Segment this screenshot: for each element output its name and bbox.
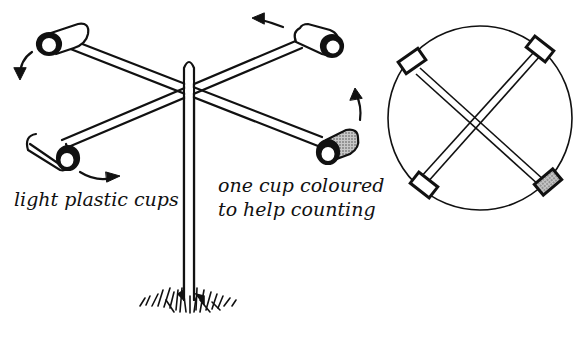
label-light-plastic-cups: light plastic cups xyxy=(14,187,179,211)
rotation-arrow-right xyxy=(350,88,362,120)
top-cup-lower-right-coloured xyxy=(534,169,561,195)
label-coloured-line-2: to help counting xyxy=(218,197,384,221)
label-coloured-cup: one cup coloured to help counting xyxy=(218,173,384,221)
cup-lower-right-coloured xyxy=(317,130,358,164)
top-view xyxy=(388,26,572,210)
cup-top-right xyxy=(295,24,343,57)
top-cup-top-right xyxy=(526,36,554,62)
cup-top-left xyxy=(37,24,88,55)
rotation-arrow-bottom xyxy=(80,172,120,182)
top-view-arms xyxy=(416,52,544,186)
arm-b xyxy=(62,40,302,148)
anemometer-diagram xyxy=(0,0,587,341)
label-coloured-line-1: one cup coloured xyxy=(218,173,384,197)
perspective-view xyxy=(14,13,362,313)
rotation-arrow-left xyxy=(14,52,32,80)
cup-lower-left xyxy=(27,134,79,170)
rotation-arrow-top xyxy=(252,13,283,27)
